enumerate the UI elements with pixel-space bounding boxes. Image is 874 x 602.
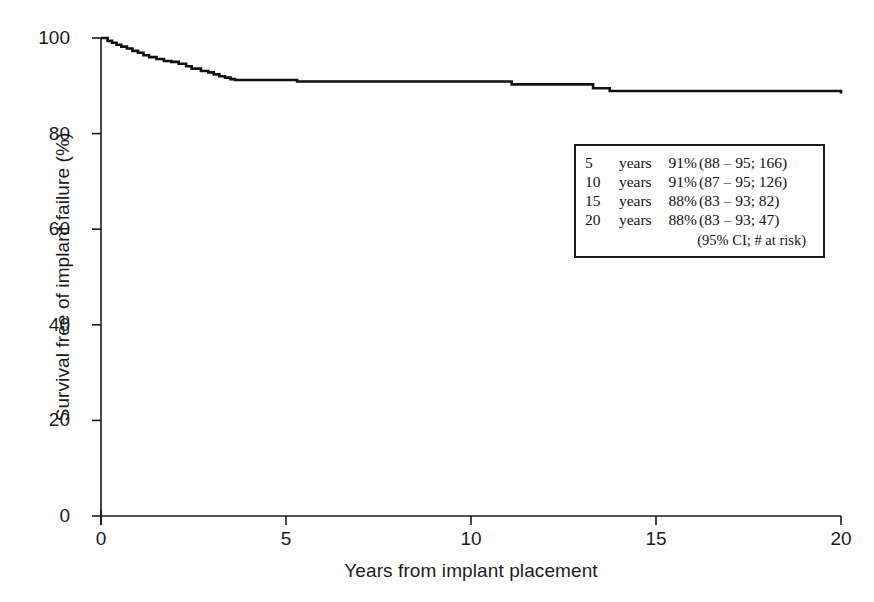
x-axis-ticks [101, 509, 841, 525]
survival-summary-footnote: (95% CI; # at risk) [585, 231, 814, 250]
survival-curve-line [101, 38, 841, 93]
survival-row-unit: years [619, 172, 652, 191]
survival-row-time: 20 [585, 210, 602, 229]
survival-row-ci: (87 – 95; 126) [697, 172, 787, 191]
survival-summary-rows: 5years91%(88 – 95; 166)10years91%(87 – 9… [585, 153, 814, 229]
survival-row-ci: (88 – 95; 166) [697, 153, 787, 172]
survival-summary-box: 5years91%(88 – 95; 166)10years91%(87 – 9… [574, 144, 825, 258]
survival-row-ci: (83 – 93; 82) [697, 191, 780, 210]
survival-row-unit: years [619, 191, 652, 210]
survival-summary-row: 10years91%(87 – 95; 126) [585, 172, 814, 191]
survival-row-unit: years [619, 153, 652, 172]
survival-row-ci: (83 – 93; 47) [697, 210, 780, 229]
survival-row-percent: 88% [669, 191, 697, 210]
survival-summary-row: 5years91%(88 – 95; 166) [585, 153, 814, 172]
survival-chart-figure: Survival free of implant failure (%) Yea… [0, 0, 874, 602]
survival-row-time: 10 [585, 172, 602, 191]
survival-row-unit: years [619, 210, 652, 229]
plot-area [0, 0, 874, 602]
survival-row-time: 5 [585, 153, 602, 172]
survival-summary-row: 20years88%(83 – 93; 47) [585, 210, 814, 229]
y-axis-ticks [92, 38, 101, 516]
survival-summary-row: 15years88%(83 – 93; 82) [585, 191, 814, 210]
survival-row-time: 15 [585, 191, 602, 210]
survival-row-percent: 88% [669, 210, 697, 229]
survival-row-percent: 91% [669, 153, 697, 172]
survival-row-percent: 91% [669, 172, 697, 191]
axis-lines [101, 38, 841, 516]
